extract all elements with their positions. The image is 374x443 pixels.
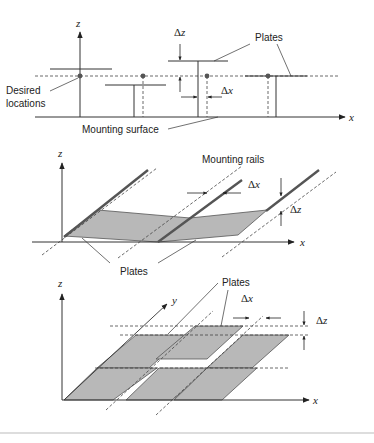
delta-z-label: Δz — [174, 26, 186, 38]
plates-label: Plates — [222, 277, 250, 288]
desired-location-dot — [266, 74, 271, 79]
delta-x-label: Δx — [241, 292, 253, 304]
top-panel: z x Δz Δx Plates — [6, 17, 354, 135]
z-axis-label: z — [57, 147, 63, 159]
x-axis-label: x — [348, 111, 354, 123]
x-axis-label: x — [312, 394, 318, 406]
mounting-surface-label: Mounting surface — [82, 124, 159, 135]
plates-leader-2 — [221, 290, 228, 326]
delta-x-label: Δx — [221, 84, 233, 96]
middle-panel: z x Mounting rails Δx Δz Plates — [32, 147, 336, 277]
bottom-panel: z y x Plates Δx Δz — [57, 277, 328, 415]
plates-leader-1 — [214, 44, 250, 61]
plates-leader-2 — [158, 240, 196, 263]
desired-locations-leader — [50, 78, 78, 91]
delta-z-label: Δz — [290, 203, 302, 215]
desired-location-dot — [141, 74, 146, 79]
delta-z-label: Δz — [316, 314, 328, 326]
z-axis-label: z — [75, 17, 81, 29]
plates-label: Plates — [120, 266, 148, 277]
z-axis-label: z — [57, 277, 63, 289]
plates-leader-2 — [277, 44, 291, 76]
x-axis-label: x — [299, 236, 305, 248]
mounting-rails-label: Mounting rails — [202, 154, 264, 165]
desired-location-dot — [205, 74, 210, 79]
desired-locations-label-line1: Desired — [6, 85, 40, 96]
mounting-surface-leader — [168, 117, 218, 129]
desired-location-dot — [78, 74, 83, 79]
plate-placement-diagram: z x Δz Δx Plates — [0, 0, 374, 443]
y-axis-label: y — [171, 294, 177, 306]
delta-x-label: Δx — [248, 178, 260, 190]
desired-locations-label-line2: locations — [6, 98, 45, 109]
plates-label: Plates — [255, 32, 283, 43]
